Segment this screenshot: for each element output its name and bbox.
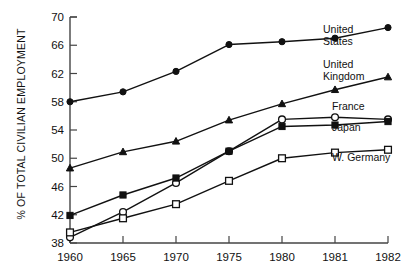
data-point [226, 41, 232, 47]
legend-label-japan: Japan [332, 121, 361, 133]
data-point [173, 175, 179, 181]
x-tick-label: 1965 [110, 251, 136, 263]
data-point [67, 229, 74, 236]
data-point [120, 192, 126, 198]
y-tick-label: 38 [51, 237, 64, 249]
x-tick-label: 1970 [163, 251, 189, 263]
x-tick-label: 1980 [269, 251, 295, 263]
chart-container: % OF TOTAL CIVILIAN EMPLOYMENT 384246505… [0, 0, 403, 276]
data-point [279, 155, 286, 162]
y-tick-label: 70 [51, 11, 64, 23]
y-tick-label: 58 [51, 96, 64, 108]
y-tick-label: 42 [51, 209, 64, 221]
x-tick-label: 1975 [216, 251, 242, 263]
y-tick-label: 66 [51, 39, 64, 51]
data-point [385, 118, 391, 124]
data-point [120, 215, 127, 222]
data-point [226, 148, 232, 154]
x-tick-label: 1960 [57, 251, 83, 263]
data-point [67, 99, 73, 105]
data-point [67, 212, 73, 218]
series-line [70, 122, 388, 216]
data-point [279, 39, 285, 45]
legend-label-united-kingdom: United [323, 58, 354, 70]
data-point [226, 177, 233, 184]
data-point [279, 116, 286, 123]
y-tick-label: 54 [51, 124, 64, 136]
legend-label-united-states-line2: States [323, 35, 353, 47]
data-point [173, 201, 180, 208]
legend-label-united-states: United [323, 23, 354, 35]
legend-label-france: France [332, 100, 365, 112]
x-axis-ticks: 1960196519701975198019811982 [57, 236, 401, 263]
legend-label-w-germany: W. Germany [332, 151, 391, 163]
data-point [384, 73, 391, 80]
x-tick-label: 1981 [322, 251, 348, 263]
legend-label-united-kingdom-line2: Kingdom [323, 70, 365, 82]
line-chart-plot: 384246505458626670 196019651970197519801… [0, 0, 403, 276]
data-point [173, 68, 179, 74]
y-tick-label: 46 [51, 181, 64, 193]
data-point [385, 24, 391, 30]
data-point [279, 123, 285, 129]
x-tick-label: 1982 [375, 251, 401, 263]
data-point [332, 114, 339, 121]
data-point [120, 89, 126, 95]
y-tick-label: 62 [51, 68, 64, 80]
y-tick-label: 50 [51, 152, 64, 164]
series-japan [67, 118, 391, 218]
